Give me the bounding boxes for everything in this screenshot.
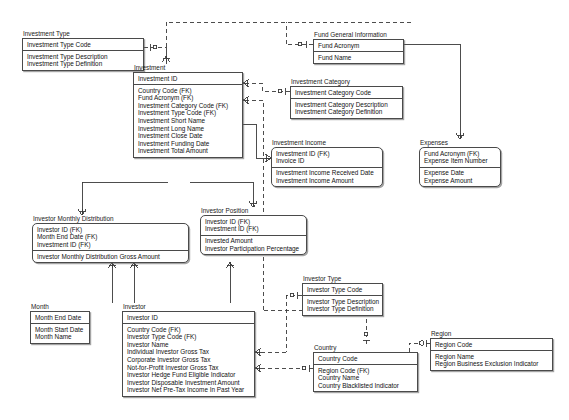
entity-investor-type[interactable]: Investor Type Investor Type Code Investo… xyxy=(302,275,383,316)
attribute: Corporate Investor Gross Tax xyxy=(127,356,250,364)
rel-investor-type-investor xyxy=(255,292,302,357)
attribute: Investor Type Description xyxy=(307,298,378,306)
entity-box: Region Code Region Name Region Business … xyxy=(430,338,553,371)
attribute: Month End Date (FK) xyxy=(37,233,184,241)
attribute: Investment ID xyxy=(138,75,238,83)
rel-investment-investor-monthly-distribution xyxy=(78,182,168,215)
entity-investor-position[interactable]: Investor Position Investor ID (FK) Inves… xyxy=(200,207,307,255)
entity-title: Investor xyxy=(122,303,255,311)
entity-investment[interactable]: Investment Investment ID Country Code (F… xyxy=(133,64,243,158)
attribute: Fund Acronym xyxy=(318,42,399,50)
attribute: Investment Type Definition xyxy=(27,60,139,68)
entity-title: Month xyxy=(30,303,90,311)
primary-key-section: Investor ID (FK) Investment ID (FK) xyxy=(201,216,306,236)
entity-investment-income[interactable]: Investment Income Investment ID (FK) Inv… xyxy=(271,139,383,187)
attribute: Region Code (FK) xyxy=(318,367,413,375)
entity-title: Expenses xyxy=(419,139,501,147)
entity-title: Country xyxy=(313,344,418,352)
entity-box: Investment ID (FK) Invoice ID Investment… xyxy=(271,147,383,187)
attribute: Investor Hedge Fund Eligible Indicator xyxy=(127,371,250,379)
entity-expenses[interactable]: Expenses Fund Acronym (FK) Expense Item … xyxy=(419,139,501,187)
primary-key-section: Fund Acronym xyxy=(314,40,403,52)
attribute-section: Investment Type Description Investment T… xyxy=(23,51,143,70)
attribute: Not-for-Profit Investor Gross Tax xyxy=(127,364,250,372)
entity-title: Investor Position xyxy=(200,207,307,215)
entity-investor[interactable]: Investor Investor ID Country Code (FK) I… xyxy=(122,303,255,397)
attribute: Investment Funding Date xyxy=(138,140,238,148)
entity-investment-type[interactable]: Investment Type Investment Type Code Inv… xyxy=(22,30,144,71)
entity-title: Investment Income xyxy=(271,139,383,147)
rel-investor-investor-monthly-distribution xyxy=(130,262,138,303)
attribute: Investor ID (FK) xyxy=(37,226,184,234)
primary-key-section: Investor ID (FK) Month End Date (FK) Inv… xyxy=(33,224,188,251)
attribute: Investment Income Received Date xyxy=(276,169,378,177)
entity-box: Investor ID (FK) Investment ID (FK) Inve… xyxy=(200,215,307,255)
attribute-section: Region Name Region Business Exclusion In… xyxy=(431,351,552,370)
attribute: Investor Type Definition xyxy=(307,305,378,313)
rel-fund-investment xyxy=(286,22,313,48)
attribute: Investor Net Pre-Tax Income In Past Year xyxy=(127,386,250,394)
rel-investment-investment-income xyxy=(243,124,271,162)
attribute-section: Fund Name xyxy=(314,52,403,63)
entity-box: Investment Category Code Investment Cate… xyxy=(290,86,403,119)
attribute: Expense Amount xyxy=(424,177,496,185)
attribute: Fund Acronym (FK) xyxy=(138,94,238,102)
rel-investment-category-investment xyxy=(243,79,290,95)
attribute: Individual Investor Gross Tax xyxy=(127,348,250,356)
attribute: Fund Acronym (FK) xyxy=(424,150,496,158)
attribute-section: Country Code (FK) Fund Acronym (FK) Inve… xyxy=(134,85,242,157)
primary-key-section: Investor Type Code xyxy=(303,284,382,296)
attribute: Investment Category Description xyxy=(295,101,398,109)
primary-key-section: Investment ID (FK) Invoice ID xyxy=(272,148,382,168)
entity-title: Investor Monthly Distribution xyxy=(32,215,189,223)
entity-investment-category[interactable]: Investment Category Investment Category … xyxy=(290,78,403,119)
entity-region[interactable]: Region Region Code Region Name Region Bu… xyxy=(430,330,553,371)
primary-key-section: Month End Date xyxy=(31,312,89,324)
attribute: Invoice ID xyxy=(276,157,378,165)
primary-key-section: Investor ID xyxy=(123,312,254,324)
attribute: Expense Item Number xyxy=(424,157,496,165)
entity-box: Investor Type Code Investor Type Descrip… xyxy=(302,283,383,316)
entity-box: Fund Acronym (FK) Expense Item Number Ex… xyxy=(419,147,501,187)
attribute-section: Investor Type Description Investor Type … xyxy=(303,296,382,315)
attribute: Region Business Exclusion Indicator xyxy=(435,360,548,368)
primary-key-section: Region Code xyxy=(431,339,552,351)
attribute: Invested Amount xyxy=(205,237,302,245)
attribute: Investment Short Name xyxy=(138,117,238,125)
attribute: Investor Monthly Distribution Gross Amou… xyxy=(37,253,184,261)
entity-investor-monthly-distribution[interactable]: Investor Monthly Distribution Investor I… xyxy=(32,215,189,263)
er-diagram-canvas: Investment Type Investment Type Code Inv… xyxy=(0,0,569,420)
entity-title: Investment xyxy=(133,64,243,72)
attribute: Expense Date xyxy=(424,169,496,177)
attribute: Month End Date xyxy=(35,314,85,322)
rel-country-investor xyxy=(255,364,313,372)
entity-box: Investment Type Code Investment Type Des… xyxy=(22,38,144,71)
entity-box: Investor ID Country Code (FK) Investor T… xyxy=(122,311,255,397)
attribute: Investment Income Amount xyxy=(276,177,378,185)
entity-title: Fund General Information xyxy=(313,31,404,39)
rel-fund-expenses xyxy=(404,44,464,139)
attribute: Fund Name xyxy=(318,54,399,62)
attribute: Region Code xyxy=(435,341,548,349)
rel-month-investor-monthly-distribution xyxy=(108,262,116,303)
entity-month[interactable]: Month Month End Date Month Start Date Mo… xyxy=(30,303,90,344)
attribute: Investment Type Code xyxy=(27,41,139,49)
entity-title: Investment Category xyxy=(290,78,403,86)
attribute: Country Code (FK) xyxy=(138,87,238,95)
primary-key-section: Investment Type Code xyxy=(23,39,143,51)
attribute: Investment ID (FK) xyxy=(205,225,302,233)
rel-investor-investor-position xyxy=(226,262,234,303)
entity-country[interactable]: Country Country Code Region Code (FK) Co… xyxy=(313,344,418,392)
entity-title: Region xyxy=(430,330,553,338)
attribute-section: Investor Monthly Distribution Gross Amou… xyxy=(33,251,188,262)
attribute: Investor Type Code (FK) xyxy=(127,333,250,341)
attribute: Investor Participation Percentage xyxy=(205,245,302,253)
attribute: Country Blacklisted Indicator xyxy=(318,382,413,390)
entity-fund-general-information[interactable]: Fund General Information Fund Acronym Fu… xyxy=(313,31,404,64)
primary-key-section: Fund Acronym (FK) Expense Item Number xyxy=(420,148,500,168)
attribute: Investment ID (FK) xyxy=(37,241,184,249)
attribute: Country Name xyxy=(318,374,413,382)
entity-title: Investment Type xyxy=(22,30,144,38)
attribute: Investment Type Code (FK) xyxy=(138,109,238,117)
attribute: Investor Name xyxy=(127,341,250,349)
